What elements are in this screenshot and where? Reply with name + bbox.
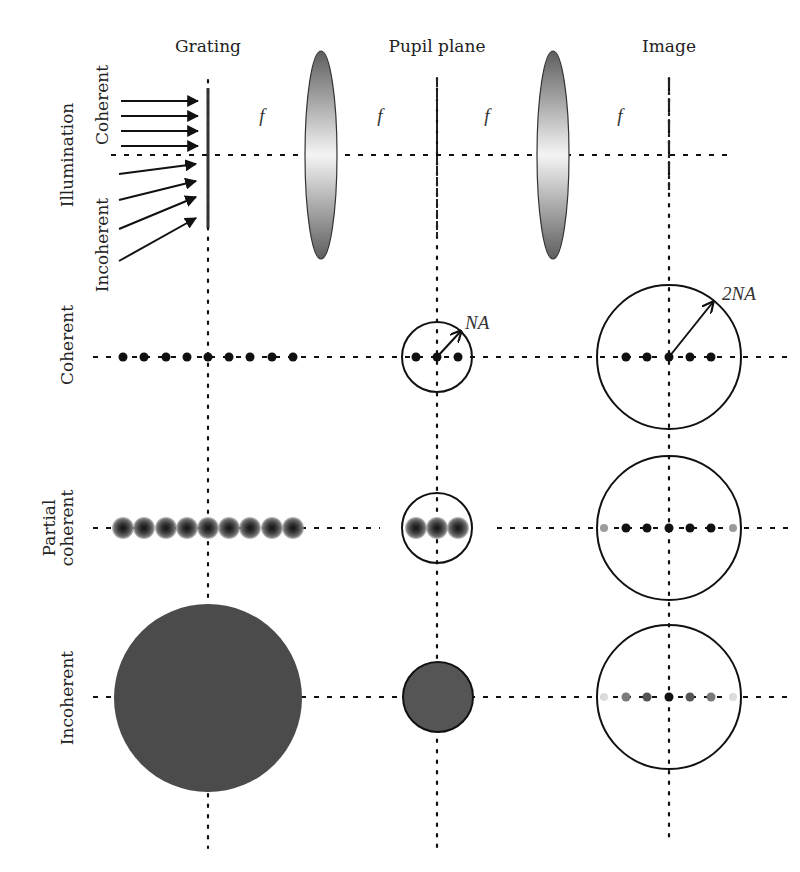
coherent-grating-orders	[119, 353, 298, 362]
partial-image-orders	[600, 524, 737, 533]
row-title-incoherent: Incoherent	[57, 651, 77, 746]
incoherent-grating-disc	[114, 604, 302, 792]
na-label: NA	[464, 312, 490, 333]
coherent-image-orders	[622, 353, 716, 362]
row-title-partial-line1: Partial	[39, 500, 59, 557]
row-title-illumination: Illumination	[57, 103, 77, 208]
partial-pupil-orders	[405, 517, 469, 539]
coherence-imaging-diagram: Grating Pupil plane Image Illumination C…	[0, 0, 800, 872]
focal-length-label-1: f	[259, 105, 267, 126]
coherent-illumination-arrows	[121, 101, 198, 146]
row-title-coherent: Coherent	[57, 305, 77, 385]
2na-radius-arrow	[669, 302, 713, 357]
column-title-pupil-plane: Pupil plane	[388, 36, 485, 56]
focal-length-label-2: f	[377, 105, 385, 126]
lens-2	[537, 51, 569, 259]
row-subtitle-coherent-illumination: Coherent	[92, 65, 112, 145]
2na-label: 2NA	[722, 283, 756, 304]
partial-grating-orders	[112, 517, 304, 539]
lens-1	[305, 51, 337, 259]
row-title-partial-line2: coherent	[57, 489, 77, 566]
incoherent-illumination-arrows	[119, 164, 196, 261]
row-subtitle-incoherent-illumination: Incoherent	[92, 198, 112, 293]
focal-length-label-4: f	[617, 105, 625, 126]
column-title-image: Image	[642, 36, 696, 56]
column-title-grating: Grating	[175, 36, 241, 56]
incoherent-pupil-disc	[403, 662, 473, 732]
incoherent-image-orders	[600, 693, 737, 702]
focal-length-label-3: f	[484, 105, 492, 126]
